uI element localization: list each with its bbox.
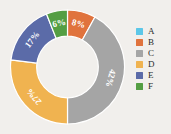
doughnut-svg: 8% 42% 27% 17% 6% [9, 7, 126, 127]
legend-label-c: C [148, 49, 154, 58]
legend-swatch-b-icon [136, 39, 143, 46]
legend-label-a: A [148, 27, 155, 36]
legend-swatch-a-icon [136, 28, 143, 35]
doughnut-slices [10, 10, 124, 124]
legend-item-f[interactable]: F [136, 82, 170, 91]
legend-swatch-f-icon [136, 83, 143, 90]
slice-d[interactable] [10, 60, 67, 124]
doughnut-chart-figure: 8% 42% 27% 17% 6% A B C D E [0, 0, 171, 134]
legend-item-b[interactable]: B [136, 38, 170, 47]
legend-swatch-c-icon [136, 50, 143, 57]
legend-label-e: E [148, 71, 154, 80]
legend-swatch-d-icon [136, 61, 143, 68]
legend-item-e[interactable]: E [136, 71, 170, 80]
legend-item-c[interactable]: C [136, 49, 170, 58]
legend-swatch-e-icon [136, 72, 143, 79]
legend-label-b: B [148, 38, 154, 47]
doughnut-plot-area: 8% 42% 27% 17% 6% [9, 7, 126, 127]
legend-label-f: F [148, 82, 153, 91]
chart-legend: A B C D E F [136, 27, 170, 91]
legend-label-d: D [148, 60, 155, 69]
legend-item-d[interactable]: D [136, 60, 170, 69]
legend-item-a[interactable]: A [136, 27, 170, 36]
